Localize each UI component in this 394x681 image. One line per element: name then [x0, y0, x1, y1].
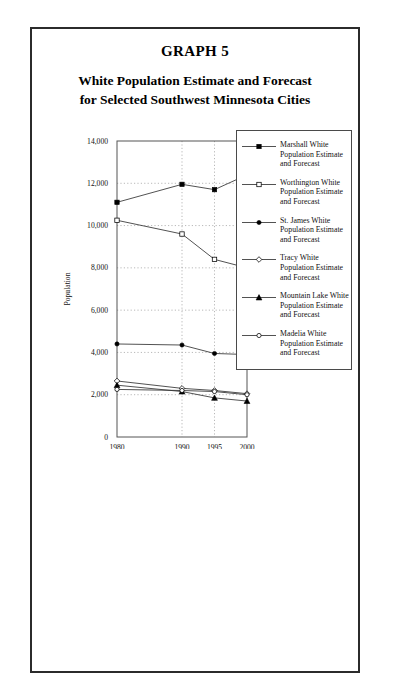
legend-item-4[interactable]: Mountain Lake WhitePopulation Estimatean…	[241, 291, 346, 320]
legend-label-line-3: and Forecast	[280, 159, 343, 169]
legend-label-line-1: St. James White	[280, 216, 343, 226]
legend-label: St. James WhitePopulation Estimateand Fo…	[277, 216, 343, 245]
data-point-marker	[257, 182, 261, 186]
data-point-marker	[180, 343, 184, 347]
x-tick-label: 2000	[239, 443, 254, 449]
data-point-marker	[180, 182, 184, 186]
legend-item-2[interactable]: St. James WhitePopulation Estimateand Fo…	[241, 216, 346, 245]
legend-marker-open-square-icon	[241, 180, 277, 189]
legend-label-line-3: and Forecast	[280, 348, 343, 358]
legend-label: Mountain Lake WhitePopulation Estimatean…	[277, 291, 349, 320]
legend-item-1[interactable]: Worthington WhitePopulation Estimateand …	[241, 178, 346, 207]
legend-label: Worthington WhitePopulation Estimateand …	[277, 178, 343, 207]
y-tick-labels-group: 02,0004,0006,0008,00010,00012,00014,000	[87, 137, 108, 442]
y-tick-label: 0	[104, 433, 108, 442]
legend-label-line-2: Population Estimate	[280, 150, 343, 160]
x-tick-label: 1990	[174, 443, 189, 449]
data-point-marker	[180, 232, 184, 236]
chart-legend: Marshall WhitePopulation Estimateand For…	[236, 130, 352, 370]
legend-label-line-2: Population Estimate	[280, 339, 343, 349]
data-point-marker	[115, 342, 119, 346]
x-tick-label: 1995	[207, 443, 222, 449]
x-tick-labels-group: 1980199019952000	[109, 443, 254, 449]
legend-label-line-2: Population Estimate	[280, 263, 343, 273]
data-point-marker	[212, 389, 216, 393]
data-point-marker	[212, 257, 216, 261]
legend-label-line-3: and Forecast	[280, 273, 343, 283]
legend-label-line-2: Population Estimate	[280, 301, 349, 311]
legend-marker-open-diamond-icon	[241, 255, 277, 264]
data-point-marker	[257, 220, 261, 224]
legend-marker-filled-circle-icon	[241, 218, 277, 227]
legend-label-line-3: and Forecast	[280, 310, 349, 320]
data-point-marker	[180, 388, 184, 392]
legend-label-line-2: Population Estimate	[280, 225, 343, 235]
legend-label: Madelia WhitePopulation Estimateand Fore…	[277, 329, 343, 358]
legend-label-line-1: Madelia White	[280, 329, 343, 339]
legend-label-line-2: Population Estimate	[280, 187, 343, 197]
legend-marker-open-circle-icon	[241, 331, 277, 340]
data-point-marker	[212, 187, 216, 191]
page-frame: GRAPH 5 White Population Estimate and Fo…	[30, 27, 360, 673]
data-point-marker	[257, 144, 261, 148]
legend-item-5[interactable]: Madelia WhitePopulation Estimateand Fore…	[241, 329, 346, 358]
legend-label-line-1: Worthington White	[280, 178, 343, 188]
x-tick-label: 1980	[109, 443, 124, 449]
data-point-marker	[257, 333, 261, 337]
legend-marker-filled-triangle-icon	[241, 293, 277, 302]
legend-label-line-1: Tracy White	[280, 253, 343, 263]
y-axis-title: Population	[63, 272, 72, 305]
data-point-marker	[212, 351, 216, 355]
legend-marker-filled-square-icon	[241, 142, 277, 151]
data-point-marker	[245, 393, 249, 397]
legend-label-line-1: Marshall White	[280, 140, 343, 150]
legend-label: Marshall WhitePopulation Estimateand For…	[277, 140, 343, 169]
y-tick-label: 14,000	[87, 137, 108, 146]
legend-label-line-1: Mountain Lake White	[280, 291, 349, 301]
data-point-marker	[115, 200, 119, 204]
y-tick-label: 12,000	[87, 179, 108, 188]
y-tick-label: 2,000	[91, 390, 108, 399]
data-point-marker	[115, 218, 119, 222]
y-tick-label: 8,000	[91, 263, 108, 272]
legend-label-line-3: and Forecast	[280, 197, 343, 207]
y-tick-label: 10,000	[87, 221, 108, 230]
legend-item-0[interactable]: Marshall WhitePopulation Estimateand For…	[241, 140, 346, 169]
legend-item-3[interactable]: Tracy WhitePopulation Estimateand Foreca…	[241, 253, 346, 282]
data-point-marker	[256, 257, 262, 263]
data-point-marker	[115, 387, 119, 391]
y-tick-label: 6,000	[91, 306, 108, 315]
legend-label-line-3: and Forecast	[280, 235, 343, 245]
legend-label: Tracy WhitePopulation Estimateand Foreca…	[277, 253, 343, 282]
y-tick-label: 4,000	[91, 348, 108, 357]
